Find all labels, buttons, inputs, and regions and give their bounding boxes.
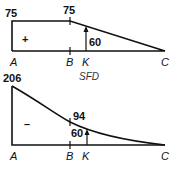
bmd-curve	[12, 86, 165, 145]
sfd-point-c: C	[161, 56, 169, 68]
bmd-point-c: C	[161, 150, 169, 162]
bmd-outline	[12, 86, 165, 145]
sfd-point-a: A	[9, 56, 17, 68]
bmd-value-b: 94	[73, 110, 86, 122]
bmd-point-a: A	[9, 150, 17, 162]
sfd-sign: +	[22, 33, 28, 45]
sfd-diagram: 75 75 60 + A B K C SFD	[5, 4, 169, 82]
bmd-point-k: K	[82, 150, 90, 162]
bmd-value-k: 60	[71, 127, 83, 139]
bmd-point-b: B	[66, 150, 73, 162]
sfd-value-a: 75	[5, 7, 17, 19]
bmd-value-a: 206	[3, 72, 21, 84]
bmd-diagram: 206 94 60 – A B K C	[3, 72, 169, 162]
sfd-value-k: 60	[89, 36, 101, 48]
diagram-canvas: 75 75 60 + A B K C SFD 206 94 60 – A B K…	[0, 0, 173, 170]
sfd-point-b: B	[66, 56, 73, 68]
bmd-sign: –	[24, 118, 30, 130]
sfd-title: SFD	[79, 71, 99, 82]
sfd-point-k: K	[82, 56, 90, 68]
sfd-value-b: 75	[63, 4, 75, 16]
